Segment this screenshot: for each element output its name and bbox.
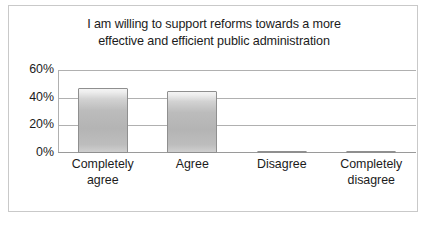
x-label-line: Agree [148,156,238,172]
x-label-line: Disagree [237,156,327,172]
x-label-disagree: Disagree [237,156,327,172]
x-axis-category-labels: Completely agree Agree Disagree Complete… [58,156,416,206]
y-tick-label-40: 40% [10,91,54,104]
x-label-completely-agree: Completely agree [58,156,148,188]
y-tick-label-60: 60% [10,63,54,76]
bar-disagree[interactable] [257,151,307,153]
bar-completely-disagree[interactable] [346,151,396,153]
chart-title: I am willing to support reforms towards … [27,16,401,50]
y-axis-tick-labels: 60% 40% 20% 0% [9,70,54,153]
plot-area [58,70,416,153]
bar-agree[interactable] [167,91,217,153]
x-label-agree: Agree [148,156,238,172]
y-tick-label-20: 20% [10,118,54,131]
chart-title-line-2: effective and efficient public administr… [27,33,401,50]
x-label-completely-disagree: Completely disagree [327,156,417,188]
bar-completely-agree[interactable] [78,88,128,153]
x-label-line: Completely [58,156,148,172]
gridline-60 [58,70,416,71]
y-axis-line [58,70,59,153]
y-tick-label-0: 0% [10,146,54,159]
chart-frame: I am willing to support reforms towards … [8,5,418,212]
x-label-line: agree [58,172,148,188]
chart-title-line-1: I am willing to support reforms towards … [27,16,401,33]
x-label-line: Completely [327,156,417,172]
x-label-line: disagree [327,172,417,188]
